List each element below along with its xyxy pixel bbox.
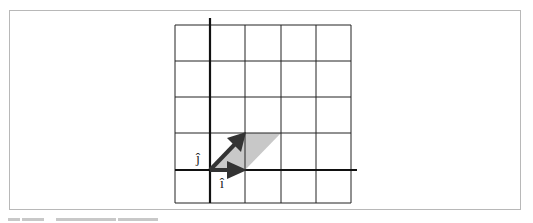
grid <box>175 25 351 203</box>
basis-vector-diagram: ĵ î <box>0 0 533 223</box>
figure-caption-cutoff <box>8 218 188 223</box>
i-hat-label: î <box>219 176 225 191</box>
j-hat-label: ĵ <box>195 151 201 166</box>
